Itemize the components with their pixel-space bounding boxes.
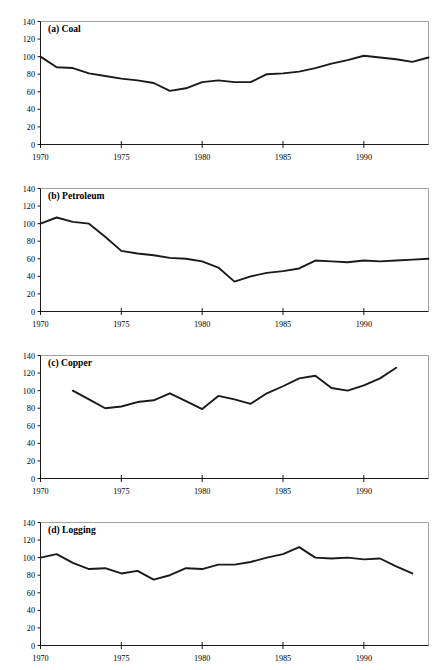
panel-logging-ytick-label: 100: [23, 554, 35, 563]
panel-petroleum-ytick-label: 40: [27, 272, 35, 281]
panel-logging-ylabels: 020406080100120140: [23, 519, 35, 651]
panel-logging-yaxis: [38, 523, 41, 646]
panel-coal-xtick-label: 1990: [356, 153, 372, 162]
panel-copper-ytick-label: 20: [27, 457, 35, 466]
panel-petroleum-xtick-label: 1980: [194, 320, 210, 329]
panel-copper-ytick-label: 80: [27, 404, 35, 413]
panel-coal-ytick-label: 40: [27, 105, 35, 114]
panel-logging-svg: 020406080100120140 19701975198019851990 …: [0, 501, 444, 668]
panel-logging-dataline: [41, 547, 413, 580]
panel-copper-svg: 020406080100120140 19701975198019851990 …: [0, 334, 444, 501]
panel-logging-xtick-label: 1990: [356, 654, 372, 663]
panel-coal-xtick-label: 1970: [32, 153, 48, 162]
panel-petroleum-xtick-label: 1990: [356, 320, 372, 329]
panel-logging-frame: [41, 523, 429, 646]
panel-copper-ytick-label: 0: [31, 475, 35, 484]
panel-petroleum-xtick-label: 1970: [32, 320, 48, 329]
panel-petroleum-dataline: [41, 217, 429, 281]
panel-logging-ytick-label: 0: [31, 642, 35, 651]
panel-petroleum-ytick-label: 120: [23, 202, 35, 211]
panel-petroleum-ytick-label: 80: [27, 237, 35, 246]
panel-petroleum-xlabels: 19701975198019851990: [32, 320, 372, 329]
panel-coal-ylabels: 020406080100120140: [23, 18, 35, 150]
panel-petroleum-ytick-label: 140: [23, 185, 35, 194]
panel-coal: 020406080100120140 19701975198019851990 …: [0, 0, 444, 167]
panel-petroleum-svg: 020406080100120140 19701975198019851990 …: [0, 167, 444, 334]
panel-coal-xlabels: 19701975198019851990: [32, 153, 372, 162]
panel-petroleum-yaxis: [38, 189, 41, 312]
panel-coal-ytick-label: 20: [27, 123, 35, 132]
panel-logging-title: (d) Logging: [48, 524, 96, 536]
figure-multi-panel-line-charts: 020406080100120140 19701975198019851990 …: [0, 0, 444, 670]
panel-copper-xtick-label: 1990: [356, 487, 372, 496]
panel-petroleum-ytick-label: 60: [27, 255, 35, 264]
panel-petroleum-ytick-label: 20: [27, 290, 35, 299]
panel-petroleum-title: (b) Petroleum: [48, 190, 105, 202]
panel-coal-xtick-label: 1980: [194, 153, 210, 162]
panel-logging-ytick-label: 60: [27, 589, 35, 598]
panel-coal-ytick-label: 0: [31, 141, 35, 150]
panel-copper-ytick-label: 120: [23, 369, 35, 378]
panel-copper-ylabels: 020406080100120140: [23, 352, 35, 484]
panel-copper-xtick-label: 1970: [32, 487, 48, 496]
panel-coal-svg: 020406080100120140 19701975198019851990 …: [0, 0, 444, 167]
panel-petroleum-frame: [41, 189, 429, 312]
panel-copper-xtick-label: 1980: [194, 487, 210, 496]
panel-coal-ytick-label: 100: [23, 53, 35, 62]
panel-logging-xtick-label: 1985: [275, 654, 291, 663]
panel-petroleum: 020406080100120140 19701975198019851990 …: [0, 167, 444, 334]
panel-copper: 020406080100120140 19701975198019851990 …: [0, 334, 444, 501]
panel-copper-title: (c) Copper: [48, 357, 93, 369]
panel-logging-xtick-label: 1970: [32, 654, 48, 663]
panel-copper-ytick-label: 40: [27, 439, 35, 448]
panel-coal-title: (a) Coal: [48, 23, 81, 35]
panel-logging: 020406080100120140 19701975198019851990 …: [0, 501, 444, 668]
panel-petroleum-xtick-label: 1975: [113, 320, 129, 329]
panel-logging-xlabels: 19701975198019851990: [32, 654, 372, 663]
panel-copper-ytick-label: 140: [23, 352, 35, 361]
panel-copper-yaxis: [38, 356, 41, 479]
panel-coal-ytick-label: 60: [27, 88, 35, 97]
panel-copper-ytick-label: 60: [27, 422, 35, 431]
panel-copper-ytick-label: 100: [23, 387, 35, 396]
panel-coal-ytick-label: 80: [27, 70, 35, 79]
panel-logging-ytick-label: 40: [27, 606, 35, 615]
panel-coal-xaxis: [41, 141, 429, 148]
panel-logging-ytick-label: 120: [23, 536, 35, 545]
panel-coal-yaxis: [38, 22, 41, 145]
panel-logging-ytick-label: 140: [23, 519, 35, 528]
panel-copper-frame: [41, 356, 429, 479]
panel-copper-xaxis: [41, 475, 429, 482]
panel-coal-xtick-label: 1985: [275, 153, 291, 162]
panel-logging-xaxis: [41, 642, 429, 649]
panel-petroleum-xaxis: [41, 308, 429, 315]
panel-petroleum-ytick-label: 100: [23, 220, 35, 229]
panel-coal-xtick-label: 1975: [113, 153, 129, 162]
panel-logging-ytick-label: 80: [27, 571, 35, 580]
panel-petroleum-ylabels: 020406080100120140: [23, 185, 35, 317]
panel-copper-xlabels: 19701975198019851990: [32, 487, 372, 496]
panel-copper-dataline: [73, 368, 396, 409]
panel-coal-ytick-label: 140: [23, 18, 35, 27]
panel-petroleum-xtick-label: 1985: [275, 320, 291, 329]
panel-petroleum-ytick-label: 0: [31, 308, 35, 317]
panel-copper-xtick-label: 1985: [275, 487, 291, 496]
panel-logging-ytick-label: 20: [27, 624, 35, 633]
panel-coal-ytick-label: 120: [23, 35, 35, 44]
panel-copper-xtick-label: 1975: [113, 487, 129, 496]
panel-logging-xtick-label: 1980: [194, 654, 210, 663]
panel-coal-dataline: [41, 56, 429, 91]
panel-logging-xtick-label: 1975: [113, 654, 129, 663]
